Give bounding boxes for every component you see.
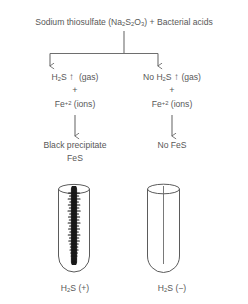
right-ion-sup: +2: [162, 100, 169, 106]
left-ion-lead: Fe: [55, 99, 65, 109]
right-plus-symbol: +: [169, 86, 174, 95]
connector-lines: [0, 0, 248, 304]
left-ion-tail: (ions): [74, 99, 96, 109]
left-product-line-2: FeS: [67, 154, 83, 163]
right-product-line-1: No FeS: [157, 141, 186, 150]
up-arrow-icon: ↑: [69, 72, 74, 82]
right-ion-tail: (ions): [171, 99, 193, 109]
right-tube-caption: H2S (−): [158, 284, 186, 294]
right-gas-lead: No H: [143, 72, 163, 82]
left-gas-label: H2S ↑ (gas): [52, 72, 99, 83]
test-tube-negative: [148, 184, 180, 272]
right-ion-label: Fe+2 (ions): [152, 100, 193, 109]
right-gas-mid: S: [166, 72, 172, 82]
right-gas-label: No H2S ↑ (gas): [143, 72, 201, 83]
test-tube-positive: [59, 184, 90, 272]
left-ion-sup: +2: [65, 100, 72, 106]
left-plus-symbol: +: [72, 86, 77, 95]
left-gas-mid: S: [61, 72, 67, 82]
left-tube-caption: H2S (+): [61, 284, 89, 294]
hydrogen-sulfide-test-diagram: Sodium thiosulfate (Na2S2O3) + Bacterial…: [0, 0, 248, 304]
right-caption-tail: S (−): [167, 283, 186, 293]
right-ion-lead: Fe: [152, 99, 162, 109]
left-product-line-1: Black precipitate: [43, 141, 106, 150]
left-ion-label: Fe+2 (ions): [55, 100, 96, 109]
left-caption-tail: S (+): [70, 283, 89, 293]
left-gas-tail: (gas): [79, 72, 99, 82]
black-precipitate: [68, 186, 80, 265]
right-gas-tail: (gas): [181, 72, 201, 82]
up-arrow-icon: ↑: [174, 72, 179, 82]
